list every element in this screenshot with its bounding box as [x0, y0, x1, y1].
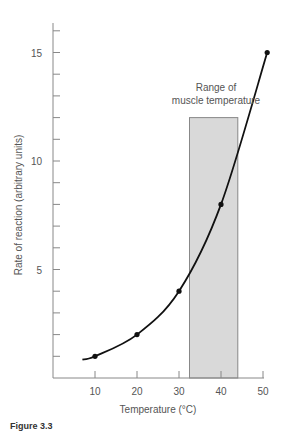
data-point — [92, 354, 97, 359]
range-annotation-line2: muscle temperature — [172, 95, 261, 106]
x-tick-label: 30 — [173, 386, 185, 397]
x-tick-label: 50 — [257, 386, 269, 397]
range-annotation-line1: Range of — [196, 82, 237, 93]
y-tick-label: 15 — [31, 48, 43, 59]
x-tick-label: 20 — [131, 386, 143, 397]
data-point — [218, 202, 223, 207]
data-point — [265, 50, 270, 55]
figure-caption: Figure 3.3 — [10, 421, 53, 431]
shaded-range-box — [190, 118, 238, 378]
data-point — [176, 289, 181, 294]
y-tick-label: 10 — [31, 156, 43, 167]
x-tick-label: 10 — [89, 386, 101, 397]
x-tick-label: 40 — [215, 386, 227, 397]
muscle-temperature-range — [190, 118, 238, 378]
y-tick-label: 5 — [36, 265, 42, 276]
y-axis-label: Rate of reaction (arbitrary units) — [13, 135, 24, 276]
data-point — [134, 332, 139, 337]
x-axis-label: Temperature (°C) — [120, 404, 197, 415]
